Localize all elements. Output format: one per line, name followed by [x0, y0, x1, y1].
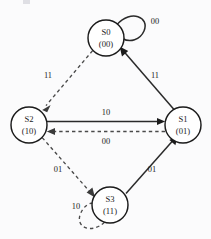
- edge-label-s2-to-s1: 10: [102, 108, 110, 117]
- edge-label-s0-to-s2: 11: [44, 71, 52, 80]
- state-node-s3-code: (11): [103, 206, 117, 216]
- state-node-s0-code: (00): [99, 39, 113, 49]
- edge-label-s1-to-s2: 00: [102, 137, 110, 146]
- state-node-s1-name: S1: [178, 114, 187, 124]
- edge-label-s0-to-s0: 00: [151, 17, 159, 26]
- state-node-s2-code: (10): [22, 126, 36, 136]
- edge-label-s3-to-s3: 10: [72, 202, 80, 211]
- state-node-s3[interactable]: S3 (11): [92, 187, 128, 223]
- state-transition-diagram: 00 11 11 10 00 01: [0, 0, 211, 239]
- state-node-s3-name: S3: [105, 194, 114, 204]
- scan-artifact: [23, 0, 30, 4]
- state-node-s0[interactable]: S0 (00): [88, 20, 124, 56]
- state-node-s0-name: S0: [101, 27, 110, 37]
- state-node-s2-name: S2: [24, 114, 33, 124]
- state-node-s1[interactable]: S1 (01): [165, 107, 201, 143]
- state-node-s2[interactable]: S2 (10): [11, 107, 47, 143]
- edge-label-s1-to-s0: 11: [151, 71, 159, 80]
- state-diagram-canvas: 00 11 11 10 00 01: [0, 0, 211, 239]
- state-node-s1-code: (01): [176, 126, 190, 136]
- edge-label-s2-to-s3: 01: [54, 165, 62, 174]
- edge-label-s3-to-s1: 01: [148, 165, 156, 174]
